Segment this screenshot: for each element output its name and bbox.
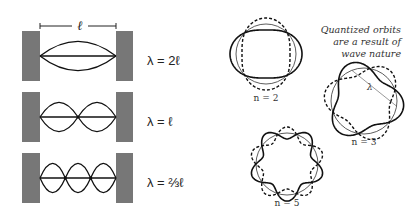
caption-line-1: Quantized orbits — [321, 24, 401, 35]
wave-upper-envelope — [40, 41, 116, 56]
node-point — [64, 177, 67, 180]
orbit-wave-solid — [332, 62, 403, 135]
right-wall — [116, 153, 133, 203]
right-wall — [116, 92, 133, 142]
wave-diagram: ℓ λ = 2ℓ λ = ℓ λ = ⅔ℓ Quantized orbits a… — [0, 0, 417, 220]
standing-wave-panel-3 — [22, 153, 133, 203]
wave-lower-envelope — [40, 178, 116, 193]
node-point — [89, 177, 92, 180]
orbit-n2 — [230, 18, 302, 90]
orbit-n2-label: n = 2 — [254, 93, 279, 103]
length-dimension: ℓ — [40, 18, 116, 33]
mode-3-wavelength-label: λ = ⅔ℓ — [147, 175, 184, 190]
wave-upper-envelope — [40, 163, 116, 178]
caption-line-3: wave nature — [341, 48, 401, 59]
wavelength-chord — [352, 70, 397, 106]
length-label: ℓ — [77, 18, 83, 33]
orbit-circle — [331, 68, 397, 134]
left-wall — [22, 153, 40, 203]
wave-lower-envelope — [40, 117, 116, 132]
standing-wave-panel-1 — [22, 31, 133, 81]
wave-lower-envelope — [40, 56, 116, 71]
mode-1-wavelength-label: λ = 2ℓ — [147, 53, 181, 68]
orbit-caption: Quantized orbits are a result of wave na… — [321, 24, 403, 59]
orbit-n5-label: n = 5 — [275, 198, 300, 208]
caption-line-2: are a result of — [333, 36, 402, 47]
orbit-n3 — [324, 62, 403, 139]
node-point — [77, 116, 80, 119]
orbit-wavelength-symbol: λ — [366, 82, 373, 92]
left-wall — [22, 31, 40, 81]
wave-upper-envelope — [40, 102, 116, 117]
right-wall — [116, 31, 133, 81]
left-wall — [22, 92, 40, 142]
orbit-circle — [256, 133, 318, 195]
standing-wave-panel-2 — [22, 92, 133, 142]
orbit-n5 — [251, 127, 322, 201]
mode-2-wavelength-label: λ = ℓ — [147, 114, 173, 129]
orbit-n3-label: n = 3 — [352, 137, 377, 147]
